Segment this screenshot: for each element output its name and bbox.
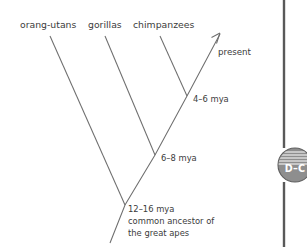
branch-orang-utans [50, 36, 125, 205]
tip-label-chimpanzees: chimpanzees [133, 19, 194, 30]
node-label-4-6-mya: 4–6 mya [193, 94, 229, 104]
root-caption-line-1: 12–16 mya [128, 204, 174, 214]
chapter-marker-badge: D–C [278, 148, 307, 182]
tip-label-orang-utans: orang-utans [20, 19, 76, 30]
node-label-6-8-mya: 6–8 mya [161, 153, 197, 163]
branch-gorillas [105, 36, 155, 155]
tip-label-gorillas: gorillas [88, 19, 122, 30]
branch-chimpanzees [160, 36, 187, 96]
badge-code-label: D–C [285, 163, 305, 174]
root-caption-line-2: common ancestor of [128, 216, 215, 226]
root-caption-line-3: the great apes [128, 228, 189, 238]
phylogenetic-tree-figure: orang-utans gorillas chimpanzees 4–6 mya… [0, 0, 307, 247]
present-label: present [218, 47, 252, 57]
